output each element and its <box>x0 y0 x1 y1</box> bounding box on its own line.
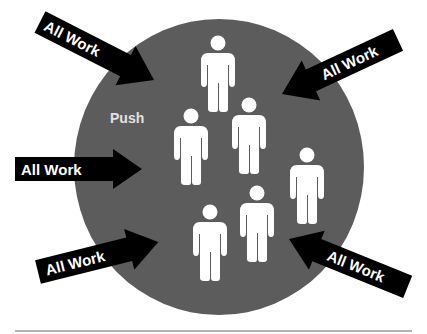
arrow-label: All Work <box>21 161 82 178</box>
arrow-label: All Work <box>325 247 388 286</box>
push-label: Push <box>110 110 144 126</box>
push-diagram: Push All Work All Work All Work All Work… <box>0 0 427 334</box>
